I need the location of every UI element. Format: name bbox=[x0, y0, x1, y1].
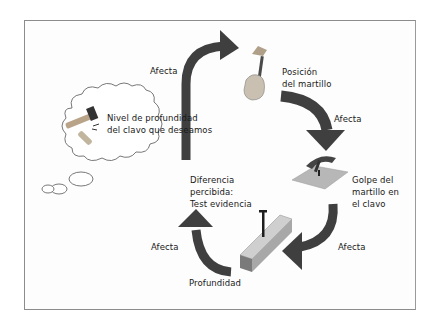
hammer-striking-nail-icon bbox=[292, 156, 348, 189]
node-strike-line3: el clavo bbox=[352, 198, 386, 210]
node-difference-line3: Test evidencia bbox=[190, 198, 252, 210]
node-hammer-position-line2: del martillo bbox=[282, 78, 332, 90]
edge-label-afecta-3: Afecta bbox=[338, 241, 366, 253]
arrow-bubble-to-hammer-position bbox=[186, 30, 239, 160]
arrow-depth-to-difference bbox=[178, 209, 231, 272]
node-difference-line1: Diferencia bbox=[190, 174, 234, 186]
arrow-strike-to-depth bbox=[282, 204, 333, 270]
node-depth-label: Profundidad bbox=[189, 277, 241, 289]
node-difference-line2: percibida: bbox=[190, 186, 233, 198]
thought-bubble bbox=[42, 83, 162, 194]
nail-in-wood-block-icon bbox=[240, 210, 292, 272]
edge-label-afecta-2: Afecta bbox=[334, 113, 362, 125]
bubble-text-line1: Nivel de profundidad bbox=[107, 112, 198, 124]
edge-label-afecta-1: Afecta bbox=[150, 65, 178, 77]
bubble-text-line2: del clavo que deseamos bbox=[107, 124, 212, 136]
node-strike-line2: martillo en bbox=[352, 186, 399, 198]
edge-label-afecta-4: Afecta bbox=[151, 241, 179, 253]
hand-holding-hammer-icon bbox=[244, 46, 267, 100]
node-strike-line1: Golpe del bbox=[352, 174, 393, 186]
node-hammer-position-line1: Posición bbox=[282, 66, 317, 78]
